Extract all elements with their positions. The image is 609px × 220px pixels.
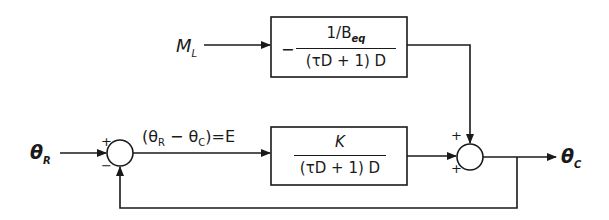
forward-transfer-function: K (τD + 1) D [294, 133, 386, 177]
reference-input-label: θR [30, 141, 51, 166]
error-signal-label: (θR − θC)=E [142, 127, 235, 148]
error-summer-plus-sign: + [101, 135, 112, 148]
load-subscript: L [192, 48, 198, 59]
numerator-text: 1/B [327, 24, 352, 42]
forward-numerator: K [294, 133, 386, 151]
error-sub-1: R [158, 137, 165, 148]
disturbance-negative-sign: − [281, 43, 294, 56]
error-part-3: )=E [205, 127, 235, 146]
fraction-bar [296, 48, 396, 49]
disturbance-transfer-function: 1/Beq (τD + 1) D [296, 24, 396, 70]
output-subscript: C [574, 159, 581, 170]
reference-subscript: R [43, 155, 51, 166]
error-summer-minus-sign: − [101, 159, 112, 172]
output-symbol: θ [561, 145, 574, 167]
forward-denominator: (τD + 1) D [294, 159, 386, 177]
error-part-1: (θ [142, 127, 158, 146]
output-label: θC [561, 145, 581, 170]
fraction-bar [294, 155, 386, 156]
disturbance-denominator: (τD + 1) D [296, 52, 396, 70]
reference-symbol: θ [30, 141, 43, 163]
error-part-2: − θ [165, 127, 198, 146]
load-input-label: ML [176, 35, 197, 59]
disturbance-numerator: 1/Beq [296, 24, 396, 44]
numerator-subscript: eq [351, 33, 365, 44]
output-summer-bottom-plus-sign: + [451, 162, 462, 175]
load-symbol: M [176, 35, 192, 56]
output-summer-top-plus-sign: + [451, 129, 462, 142]
